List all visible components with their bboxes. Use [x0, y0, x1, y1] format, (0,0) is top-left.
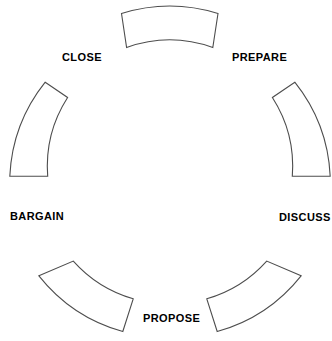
cycle-diagram: PREPARE DISCUSS PROPOSE BARGAIN CLOSE	[0, 0, 332, 341]
stage-label-discuss: DISCUSS	[279, 211, 331, 223]
stage-label-close: CLOSE	[62, 51, 102, 63]
cycle-segment-close[interactable]	[10, 82, 68, 176]
cycle-segment-propose[interactable]	[207, 261, 301, 331]
stage-label-prepare: PREPARE	[232, 51, 287, 63]
cycle-segment-bargain[interactable]	[39, 261, 133, 331]
stage-label-bargain: BARGAIN	[10, 210, 64, 222]
cycle-segment-prepare[interactable]	[272, 82, 330, 176]
cycle-segment-top[interactable]	[122, 6, 219, 47]
stage-label-propose: PROPOSE	[143, 312, 200, 324]
